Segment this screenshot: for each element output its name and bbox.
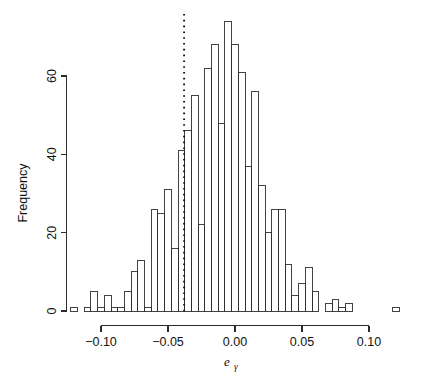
histogram-bar bbox=[346, 303, 353, 311]
histogram-bar bbox=[238, 72, 245, 311]
histogram-bar bbox=[71, 307, 78, 311]
histogram-bar bbox=[165, 190, 172, 311]
x-tick-label: 0.10 bbox=[357, 335, 381, 349]
histogram-bar bbox=[158, 213, 165, 311]
histogram-bar bbox=[218, 123, 225, 311]
histogram-bar bbox=[245, 166, 252, 311]
histogram-bar bbox=[258, 186, 265, 311]
y-tick-label: 40 bbox=[45, 147, 59, 161]
histogram-bars-group bbox=[71, 21, 399, 311]
x-axis-group: −0.10−0.050.000.050.10 bbox=[85, 326, 381, 350]
y-tick-label: 20 bbox=[45, 226, 59, 240]
histogram-bar bbox=[332, 299, 339, 311]
histogram-bar bbox=[104, 295, 111, 311]
histogram-bar bbox=[285, 264, 292, 311]
histogram-bar bbox=[292, 295, 299, 311]
x-tick-label: 0.05 bbox=[290, 335, 314, 349]
x-tick-label: −0.10 bbox=[85, 335, 117, 349]
histogram-bar bbox=[198, 225, 205, 311]
histogram-bar bbox=[131, 272, 138, 311]
histogram-bar bbox=[279, 209, 286, 311]
y-axis-group: 0204060 bbox=[45, 69, 66, 314]
y-tick-label: 0 bbox=[45, 307, 59, 314]
histogram-bar bbox=[185, 131, 192, 311]
x-axis-title-subscript: γ bbox=[234, 362, 238, 372]
x-tick-label: 0.00 bbox=[223, 335, 247, 349]
histogram-bar bbox=[325, 303, 332, 311]
histogram-bar bbox=[232, 45, 239, 311]
y-axis-ticks: 0204060 bbox=[45, 69, 66, 314]
histogram-bar bbox=[145, 307, 152, 311]
histogram-bar bbox=[212, 45, 219, 311]
x-axis-title-base: e bbox=[224, 354, 230, 369]
y-axis-title: Frequency bbox=[16, 163, 30, 223]
histogram-bar bbox=[151, 209, 158, 311]
histogram-bar bbox=[339, 307, 346, 311]
histogram-bar bbox=[118, 307, 125, 311]
histogram-bar bbox=[312, 291, 319, 311]
histogram-bar bbox=[299, 284, 306, 311]
histogram-bar bbox=[305, 268, 312, 311]
x-tick-label: −0.05 bbox=[152, 335, 184, 349]
histogram-bar bbox=[205, 68, 212, 311]
histogram-bar bbox=[191, 96, 198, 311]
histogram-svg-canvas: 0204060 −0.10−0.050.000.050.10 Frequency… bbox=[0, 0, 422, 385]
histogram-bar bbox=[91, 291, 98, 311]
histogram-bar bbox=[272, 209, 279, 311]
histogram-bar bbox=[84, 307, 91, 311]
histogram-bar bbox=[171, 248, 178, 311]
x-axis-ticks: −0.10−0.050.000.050.10 bbox=[85, 326, 381, 350]
histogram-plot-root: 0204060 −0.10−0.050.000.050.10 Frequency… bbox=[0, 0, 422, 385]
histogram-bar bbox=[138, 260, 145, 311]
histogram-bar bbox=[98, 307, 105, 311]
histogram-bar bbox=[265, 233, 272, 311]
histogram-bar bbox=[392, 307, 399, 311]
histogram-bar bbox=[252, 92, 259, 311]
histogram-bar bbox=[111, 307, 118, 311]
y-tick-label: 60 bbox=[45, 69, 59, 83]
histogram-bar bbox=[124, 291, 131, 311]
histogram-bar bbox=[225, 21, 232, 311]
